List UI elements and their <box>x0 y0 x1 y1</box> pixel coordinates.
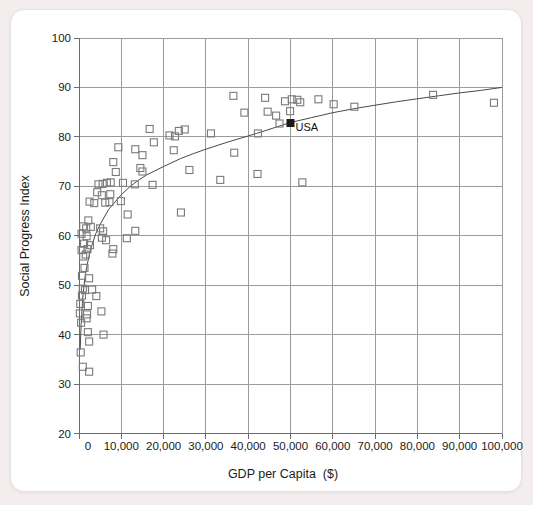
data-point <box>107 191 114 198</box>
data-point <box>110 159 117 166</box>
data-point <box>177 209 184 216</box>
y-tick-label: 20 <box>58 428 71 440</box>
data-point <box>273 112 280 119</box>
x-tick-label: 100,000 <box>481 440 523 452</box>
data-point <box>262 94 269 101</box>
data-point <box>86 338 93 345</box>
y-tick-label: 80 <box>58 131 71 143</box>
data-point <box>98 308 105 315</box>
data-point <box>217 176 224 183</box>
y-axis-title: Social Progress Index <box>18 174 32 296</box>
data-point <box>231 149 238 156</box>
data-point <box>86 275 93 282</box>
axis-layer: 010,00020,00030,00040,00050,00060,00070,… <box>52 32 523 452</box>
data-point <box>106 199 113 206</box>
data-point <box>149 181 156 188</box>
y-tick-label: 40 <box>58 329 71 341</box>
data-point <box>78 272 85 279</box>
data-point <box>254 170 261 177</box>
data-point <box>282 98 289 105</box>
data-point <box>132 146 139 153</box>
data-point <box>132 227 139 234</box>
page-background: 010,00020,00030,00040,00050,00060,00070,… <box>0 0 533 505</box>
data-point <box>115 144 122 151</box>
x-tick-label: 80,000 <box>400 440 435 452</box>
data-point <box>186 166 193 173</box>
data-point <box>103 237 110 244</box>
x-axis-title: GDP per Capita ($) <box>228 467 338 481</box>
y-tick-label: 100 <box>52 32 71 44</box>
y-tick-label: 70 <box>58 180 71 192</box>
data-point <box>150 139 157 146</box>
data-point <box>207 130 214 137</box>
x-tick-label: 20,000 <box>146 440 181 452</box>
y-tick-label: 90 <box>58 81 71 93</box>
x-tick-label: 0 <box>85 440 91 452</box>
data-point <box>119 179 126 186</box>
data-point <box>124 211 131 218</box>
data-point <box>102 199 109 206</box>
data-point <box>264 108 271 115</box>
data-point <box>146 125 153 132</box>
usa-point <box>287 120 294 127</box>
data-point <box>170 147 177 154</box>
y-tick-label: 60 <box>58 230 71 242</box>
data-point <box>139 152 146 159</box>
y-tick-label: 50 <box>58 279 71 291</box>
data-point <box>77 349 84 356</box>
data-point <box>330 101 337 108</box>
data-point <box>299 179 306 186</box>
usa-label: USA <box>296 121 319 133</box>
x-tick-label: 40,000 <box>231 440 266 452</box>
scatter-chart: 010,00020,00030,00040,00050,00060,00070,… <box>0 0 533 505</box>
point-layer: USA <box>76 91 497 375</box>
x-tick-label: 60,000 <box>315 440 350 452</box>
x-tick-label: 70,000 <box>358 440 393 452</box>
data-point <box>84 302 91 309</box>
x-tick-label: 10,000 <box>104 440 139 452</box>
x-tick-label: 30,000 <box>188 440 223 452</box>
data-point <box>490 99 497 106</box>
data-point <box>230 92 237 99</box>
data-point <box>315 96 322 103</box>
x-tick-label: 90,000 <box>442 440 477 452</box>
data-point <box>112 168 119 175</box>
x-tick-label: 50,000 <box>273 440 308 452</box>
y-tick-label: 30 <box>58 378 71 390</box>
data-point <box>241 109 248 116</box>
grid-layer <box>79 38 502 434</box>
